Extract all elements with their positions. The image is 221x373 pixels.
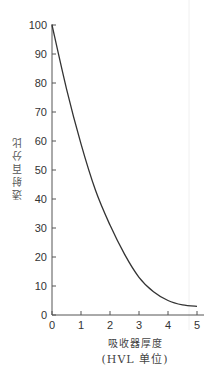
- transmission-curve: [52, 25, 197, 306]
- x-tick-label: 2: [107, 319, 113, 331]
- x-axis: 012345: [49, 311, 204, 331]
- x-tick-label: 3: [136, 319, 142, 331]
- y-tick-label: 0: [41, 309, 47, 321]
- y-tick-label: 30: [35, 222, 47, 234]
- y-tick-label: 50: [35, 164, 47, 176]
- x-tick-label: 4: [165, 319, 171, 331]
- y-axis: 0102030405060708090100: [29, 19, 56, 321]
- x-axis-title: 吸收器厚度: [90, 335, 180, 350]
- y-tick-label: 80: [35, 77, 47, 89]
- y-tick-label: 100: [29, 19, 47, 31]
- x-tick-label: 0: [49, 319, 55, 331]
- y-tick-label: 60: [35, 135, 47, 147]
- x-axis-unit: (HVL 单位): [80, 350, 190, 366]
- y-tick-label: 70: [35, 106, 47, 118]
- y-tick-label: 90: [35, 48, 47, 60]
- x-tick-label: 5: [194, 319, 200, 331]
- y-tick-label: 40: [35, 193, 47, 205]
- y-axis-title: 透射百分比: [10, 135, 25, 200]
- x-tick-label: 1: [78, 319, 84, 331]
- y-tick-label: 10: [35, 280, 47, 292]
- transmission-chart: 0102030405060708090100 012345: [0, 0, 221, 373]
- y-tick-label: 20: [35, 251, 47, 263]
